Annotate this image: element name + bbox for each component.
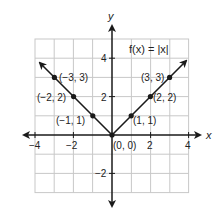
label-2-2: (2, 2) [153, 92, 176, 103]
label-3-3: (3, 3) [141, 72, 164, 83]
absolute-value-graph: y x f(x) = |x| −4 −2 2 4 4 2 −2 (−3, 3) … [0, 0, 220, 221]
tick-y-2: 2 [101, 92, 107, 103]
function-label: f(x) = |x| [129, 43, 169, 55]
tick-y-neg2: −2 [95, 168, 107, 179]
point-0-0 [109, 132, 114, 137]
tick-x-2: 2 [147, 140, 153, 151]
tick-x-4: 4 [185, 140, 191, 151]
x-axis-label: x [205, 129, 212, 141]
tick-x-neg2: −2 [66, 140, 78, 151]
tick-x-neg4: −4 [29, 140, 41, 151]
label-neg3-3: (−3, 3) [59, 72, 88, 83]
point-neg2-2 [71, 94, 76, 99]
y-axis-label: y [107, 10, 115, 22]
point-3-3 [167, 75, 172, 80]
label-neg2-2: (−2, 2) [37, 92, 66, 103]
point-neg1-1 [90, 113, 95, 118]
label-0-0: (0, 0) [113, 140, 136, 151]
point-neg3-3 [52, 75, 57, 80]
tick-y-4: 4 [101, 53, 107, 64]
label-1-1: (1, 1) [133, 115, 156, 126]
label-neg1-1: (−1, 1) [56, 115, 85, 126]
